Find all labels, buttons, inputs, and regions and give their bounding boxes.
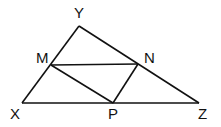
label-x: X bbox=[10, 105, 20, 122]
label-y: Y bbox=[74, 4, 84, 21]
triangle-diagram: Y M N X P Z bbox=[0, 0, 221, 127]
segment-mn bbox=[51, 64, 138, 65]
label-p: P bbox=[108, 105, 118, 122]
segment-mp bbox=[51, 65, 113, 103]
label-z: Z bbox=[198, 105, 207, 122]
segment-np bbox=[113, 64, 138, 103]
label-m: M bbox=[36, 49, 49, 66]
label-n: N bbox=[144, 49, 155, 66]
